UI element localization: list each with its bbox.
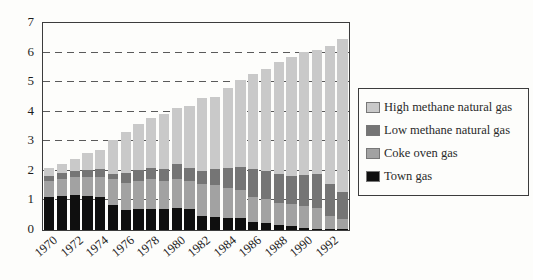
plot-area xyxy=(42,22,350,231)
bar-1973-coke-oven-gas xyxy=(82,177,92,196)
bar-1973-high-methane-natural-gas xyxy=(82,153,92,170)
bar-1989-coke-oven-gas xyxy=(286,204,296,226)
bar-1974-town-gas xyxy=(95,197,105,230)
bar-1980-coke-oven-gas xyxy=(172,179,182,208)
bar-1982-town-gas xyxy=(197,216,207,230)
bar-1978-coke-oven-gas xyxy=(146,179,156,209)
y-axis-tick-label-2: 2 xyxy=(8,163,34,177)
bar-1974-low-methane-natural-gas xyxy=(95,169,105,176)
bar-1988-high-methane-natural-gas xyxy=(274,62,284,174)
bar-1978 xyxy=(146,23,156,230)
bar-1992-town-gas xyxy=(325,229,335,230)
bar-1972-town-gas xyxy=(70,195,80,230)
x-axis-tick-label-1992: 1992 xyxy=(313,233,342,261)
bar-1982-coke-oven-gas xyxy=(197,184,207,216)
bar-1991-high-methane-natural-gas xyxy=(312,50,322,174)
bar-1986-high-methane-natural-gas xyxy=(248,74,258,170)
y-axis-tick-label-5: 5 xyxy=(8,74,34,88)
legend-item-high-methane-natural-gas: High methane natural gas xyxy=(366,96,522,119)
legend-item-coke-oven-gas: Coke oven gas xyxy=(366,142,522,165)
bar-1986 xyxy=(248,23,258,230)
bar-1983-town-gas xyxy=(210,217,220,230)
bar-1976-low-methane-natural-gas xyxy=(121,173,131,183)
bar-1987-town-gas xyxy=(261,223,271,230)
bar-1980 xyxy=(172,23,182,230)
x-axis-tick-label-1988: 1988 xyxy=(262,233,291,261)
x-axis-tick-label-1984: 1984 xyxy=(211,233,240,261)
legend-item-low-methane-natural-gas: Low methane natural gas xyxy=(366,119,522,142)
bar-1975-coke-oven-gas xyxy=(108,179,118,204)
bar-1978-high-methane-natural-gas xyxy=(146,118,156,168)
bar-1981-coke-oven-gas xyxy=(184,181,194,209)
legend-label: Town gas xyxy=(384,169,432,184)
bar-1989-high-methane-natural-gas xyxy=(286,57,296,176)
legend-swatch xyxy=(366,171,380,182)
legend-swatch xyxy=(366,148,380,159)
bar-1986-low-methane-natural-gas xyxy=(248,169,258,196)
bar-1977-coke-oven-gas xyxy=(133,181,143,209)
bar-1979-coke-oven-gas xyxy=(159,181,169,209)
x-axis-tick-label-1976: 1976 xyxy=(109,233,138,261)
bar-1979 xyxy=(159,23,169,230)
legend-label: High methane natural gas xyxy=(384,100,512,115)
bar-1972-high-methane-natural-gas xyxy=(70,159,80,171)
bar-1987 xyxy=(261,23,271,230)
y-axis-tick-label-6: 6 xyxy=(8,45,34,59)
bar-1979-low-methane-natural-gas xyxy=(159,169,169,181)
bar-1970-town-gas xyxy=(44,197,54,230)
bar-1974 xyxy=(95,23,105,230)
bar-1992-coke-oven-gas xyxy=(325,216,335,229)
bar-1992-high-methane-natural-gas xyxy=(325,46,335,184)
bar-1986-coke-oven-gas xyxy=(248,197,258,222)
bar-1993 xyxy=(337,23,347,230)
bar-1978-low-methane-natural-gas xyxy=(146,168,156,180)
bar-1972 xyxy=(70,23,80,230)
x-axis-tick-label-1986: 1986 xyxy=(236,233,265,261)
bar-1992 xyxy=(325,23,335,230)
bar-1976-high-methane-natural-gas xyxy=(121,132,131,172)
bar-1991-coke-oven-gas xyxy=(312,208,322,229)
bar-1985 xyxy=(235,23,245,230)
bar-1984-coke-oven-gas xyxy=(223,188,233,218)
bar-1970-coke-oven-gas xyxy=(44,181,54,197)
bar-1979-high-methane-natural-gas xyxy=(159,114,169,169)
bar-1977-high-methane-natural-gas xyxy=(133,124,143,170)
bar-1977-town-gas xyxy=(133,209,143,230)
bar-1985-town-gas xyxy=(235,218,245,230)
x-axis-tick-label-1970: 1970 xyxy=(32,233,61,261)
legend-label: Low methane natural gas xyxy=(384,123,510,138)
bar-1985-coke-oven-gas xyxy=(235,190,245,219)
bar-1991-town-gas xyxy=(312,229,322,230)
bar-1980-low-methane-natural-gas xyxy=(172,164,182,179)
bar-1982-low-methane-natural-gas xyxy=(197,171,207,184)
x-axis-tick-label-1990: 1990 xyxy=(287,233,316,261)
bar-1971-coke-oven-gas xyxy=(57,179,67,196)
bar-1976-coke-oven-gas xyxy=(121,183,131,210)
x-axis-tick-label-1978: 1978 xyxy=(134,233,163,261)
bar-1988-coke-oven-gas xyxy=(274,203,284,225)
bar-1974-high-methane-natural-gas xyxy=(95,150,105,170)
bar-1987-coke-oven-gas xyxy=(261,199,271,223)
bar-1983-coke-oven-gas xyxy=(210,185,220,217)
bar-1984-town-gas xyxy=(223,218,233,230)
x-axis-tick-label-1982: 1982 xyxy=(185,233,214,261)
y-axis-tick-label-0: 0 xyxy=(8,222,34,236)
bar-1989-town-gas xyxy=(286,226,296,230)
bar-1985-low-methane-natural-gas xyxy=(235,167,245,190)
bar-1971-high-methane-natural-gas xyxy=(57,164,67,174)
bar-1970 xyxy=(44,23,54,230)
bar-1981-high-methane-natural-gas xyxy=(184,106,194,168)
bar-1972-coke-oven-gas xyxy=(70,177,80,195)
bar-1993-high-methane-natural-gas xyxy=(337,39,347,192)
bar-1982-high-methane-natural-gas xyxy=(197,98,207,171)
legend-label: Coke oven gas xyxy=(384,146,458,161)
bar-1988-low-methane-natural-gas xyxy=(274,174,284,202)
bar-1986-town-gas xyxy=(248,222,258,230)
bar-1988 xyxy=(274,23,284,230)
bar-1990-coke-oven-gas xyxy=(299,206,309,228)
bar-1980-town-gas xyxy=(172,208,182,230)
bar-1984-low-methane-natural-gas xyxy=(223,168,233,188)
bar-1981-low-methane-natural-gas xyxy=(184,168,194,181)
bar-1993-coke-oven-gas xyxy=(337,219,347,229)
bar-1989-low-methane-natural-gas xyxy=(286,176,296,204)
